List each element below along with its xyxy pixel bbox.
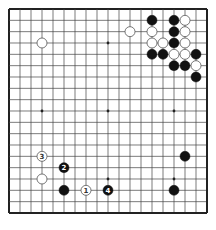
black-stone[interactable] [180,61,190,71]
white-stone-icon [180,38,190,48]
white-stone[interactable] [180,15,190,25]
black-stone-icon [180,151,190,161]
white-stone[interactable] [191,61,201,71]
white-stone[interactable] [158,38,168,48]
numbered-move-1[interactable]: 1 [81,185,91,195]
black-stone-icon [180,61,190,71]
black-stone-icon [169,27,179,37]
white-stone-icon [169,49,179,59]
white-stone-icon [37,174,47,184]
white-stone-icon [158,38,168,48]
white-stone-icon [37,38,47,48]
move-number-label: 1 [84,187,89,195]
numbered-move-4[interactable]: 4 [103,185,113,195]
star-point [173,178,176,181]
star-point [107,42,110,45]
white-stone-icon [180,15,190,25]
white-stone-icon [191,61,201,71]
black-stone[interactable] [59,185,69,195]
black-stone[interactable] [180,151,190,161]
white-stone[interactable] [125,27,135,37]
black-stone-icon [169,15,179,25]
numbered-move-3[interactable]: 3 [37,151,47,161]
white-stone[interactable] [147,27,157,37]
star-point [173,110,176,113]
move-number-label: 4 [106,187,111,195]
white-stone[interactable] [37,38,47,48]
black-stone[interactable] [169,15,179,25]
white-stone[interactable] [180,27,190,37]
star-point [107,178,110,181]
white-stone-icon [125,27,135,37]
white-stone-icon [147,27,157,37]
black-stone[interactable] [169,61,179,71]
black-stone[interactable] [169,38,179,48]
star-point [41,110,44,113]
white-stone[interactable] [180,38,190,48]
black-stone[interactable] [158,49,168,59]
black-stone[interactable] [147,15,157,25]
black-stone[interactable] [147,49,157,59]
black-stone[interactable] [169,27,179,37]
black-stone-icon [169,61,179,71]
numbered-move-2[interactable]: 2 [59,163,69,173]
black-stone[interactable] [169,185,179,195]
black-stone-icon [147,15,157,25]
move-number-label: 2 [62,164,67,172]
white-stone[interactable] [37,174,47,184]
black-stone-icon [147,49,157,59]
black-stone[interactable] [191,72,201,82]
black-stone-icon [158,49,168,59]
black-stone-icon [169,185,179,195]
white-stone-icon [147,38,157,48]
black-stone[interactable] [191,49,201,59]
black-stone-icon [169,38,179,48]
white-stone-icon [180,27,190,37]
star-point [107,110,110,113]
black-stone-icon [59,185,69,195]
black-stone-icon [191,72,201,82]
white-stone-icon [180,49,190,59]
white-stone[interactable] [169,49,179,59]
go-board[interactable]: 1234 [0,0,216,230]
black-stone-icon [191,49,201,59]
white-stone[interactable] [147,38,157,48]
move-number-label: 3 [40,153,45,161]
white-stone[interactable] [180,49,190,59]
